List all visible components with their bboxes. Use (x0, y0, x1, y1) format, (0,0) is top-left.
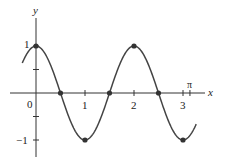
data-point (33, 43, 38, 48)
x-tick-label-pi: π (187, 79, 192, 90)
data-point (131, 43, 136, 48)
y-tick-label-neg1: −1 (16, 134, 28, 146)
data-point (58, 90, 63, 95)
x-tick-label-2: 2 (131, 99, 137, 111)
origin-label: 0 (27, 98, 33, 110)
x-tick-label-1: 1 (82, 99, 88, 111)
data-point (180, 137, 185, 142)
data-point (107, 90, 112, 95)
y-axis-label: y (32, 4, 38, 16)
cosine-plot: y x 0 1 2 3 π 1 −1 (0, 0, 228, 166)
data-point (156, 90, 161, 95)
x-axis-label: x (207, 86, 213, 98)
data-point (82, 137, 87, 142)
y-tick-label-1: 1 (24, 38, 30, 50)
x-tick-label-3: 3 (180, 99, 186, 111)
